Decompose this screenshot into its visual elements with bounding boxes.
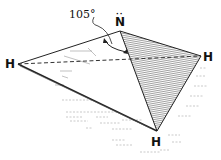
pyramid-drawing [0,0,221,160]
bond-n-h-left [18,31,120,64]
atom-h-left: H [5,58,15,70]
bond-angle-label: 105° [69,9,96,20]
left-face-hatch [55,48,96,85]
atom-n: N [115,16,125,28]
nh3-diagram: 105° ·· N H H H [0,0,221,160]
angle-arrow [106,41,126,52]
edge-left-bottom-2 [20,66,150,128]
atom-h-right: H [203,51,213,63]
atom-h-bottom: H [151,136,161,148]
angle-leader [93,17,112,44]
